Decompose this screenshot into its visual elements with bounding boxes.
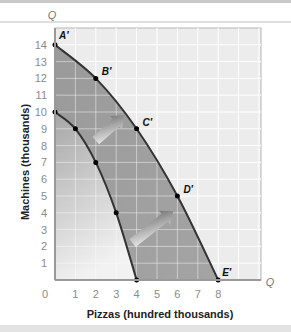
point-label: D′ xyxy=(183,184,193,195)
y-tick-label: 11 xyxy=(36,89,47,101)
x-tick-label: 5 xyxy=(154,288,160,300)
y-tick-label: 7 xyxy=(41,156,47,168)
x-axis-end-label: Q xyxy=(266,276,275,288)
y-axis-title: Machines (thousands) xyxy=(19,104,31,220)
y-tick-label: 1 xyxy=(41,257,47,269)
y-tick-label: 4 xyxy=(41,207,47,219)
y-tick-label: 12 xyxy=(35,72,47,84)
point-label: E′ xyxy=(222,267,232,278)
y-tick-label: 2 xyxy=(41,240,47,252)
data-point xyxy=(93,76,98,81)
y-tick-label: 5 xyxy=(41,190,47,202)
y-tick-label: 8 xyxy=(41,140,47,152)
x-tick-label: 0 xyxy=(42,288,48,300)
x-tick-label: 3 xyxy=(113,288,119,300)
y-tick-label: 10 xyxy=(35,106,47,118)
y-tick-label: 13 xyxy=(35,56,47,68)
x-tick-label: 1 xyxy=(72,288,78,300)
y-tick-label: 9 xyxy=(41,123,47,135)
x-tick-label: 8 xyxy=(215,288,221,300)
ppf-chart: A′B′C′D′E′0123456781234567891011121314 P… xyxy=(0,0,291,332)
x-tick-label: 4 xyxy=(134,288,140,300)
point-label: B′ xyxy=(102,66,112,77)
data-point xyxy=(114,210,119,215)
data-point xyxy=(73,126,78,131)
y-axis-end-label: Q xyxy=(48,9,57,21)
y-tick-label: 3 xyxy=(41,224,47,236)
point-label: C′ xyxy=(143,117,153,128)
y-tick-label: 6 xyxy=(41,173,47,185)
point-label: A′ xyxy=(58,30,69,41)
x-tick-label: 2 xyxy=(93,288,99,300)
data-point xyxy=(175,194,180,199)
x-tick-label: 6 xyxy=(174,288,180,300)
y-tick-label: 14 xyxy=(35,39,47,51)
x-axis-title: Pizzas (hundred thousands) xyxy=(87,308,234,320)
data-point xyxy=(93,160,98,165)
x-tick-label: 7 xyxy=(195,288,201,300)
data-point xyxy=(134,126,139,131)
